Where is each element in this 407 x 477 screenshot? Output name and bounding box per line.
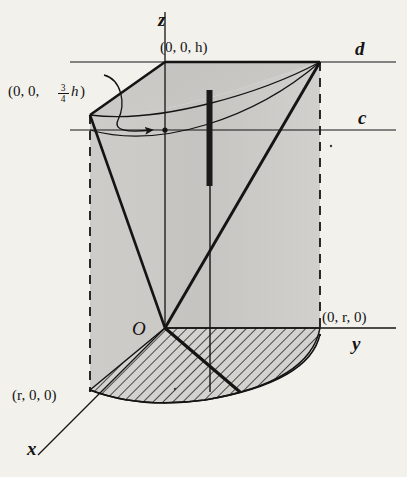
figure-root: z d c (0, 0, h) (0, 0, 3 4 h ) O (0, r, … — [0, 0, 407, 477]
three-quarter-denominator: 4 — [61, 94, 66, 104]
marker-dot-three-quarter-height — [162, 127, 167, 132]
three-quarter-suffix: ) — [80, 83, 85, 100]
point-label-x-radius: (r, 0, 0) — [12, 387, 56, 404]
point-label-origin: O — [132, 318, 146, 339]
axis-label-x: x — [26, 438, 37, 459]
three-quarter-variable: h — [71, 83, 79, 99]
axis-label-z: z — [157, 9, 166, 30]
speck-dot-right — [330, 145, 332, 147]
speck-dot-base — [174, 388, 176, 390]
point-label-top-z: (0, 0, h) — [160, 39, 208, 56]
three-quarter-numerator: 3 — [61, 83, 66, 93]
geometry-diagram: z d c (0, 0, h) (0, 0, 3 4 h ) O (0, r, … — [0, 0, 407, 477]
rod-thick-bar — [207, 90, 213, 186]
guide-label-c: c — [358, 107, 367, 128]
guide-label-d: d — [355, 38, 365, 59]
axis-label-y: y — [350, 333, 361, 354]
three-quarter-prefix: (0, 0, — [8, 83, 39, 100]
point-label-y-radius: (0, r, 0) — [322, 309, 366, 326]
